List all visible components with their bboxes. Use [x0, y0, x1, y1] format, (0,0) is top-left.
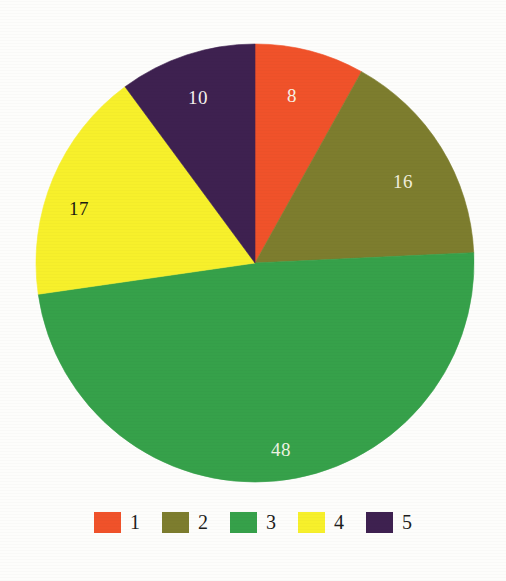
legend-swatch-3: [230, 512, 257, 533]
pie-chart-svg: 816481710: [0, 0, 506, 500]
legend-label-5: 5: [402, 512, 412, 532]
chart-legend: 12345: [0, 503, 506, 541]
legend-item-2[interactable]: 2: [162, 512, 208, 533]
legend-item-5[interactable]: 5: [366, 512, 412, 533]
pie-slice-value-label-1: 8: [287, 85, 297, 106]
legend-swatch-2: [162, 512, 189, 533]
legend-item-3[interactable]: 3: [230, 512, 276, 533]
pie-chart-plot-area: 816481710: [0, 0, 506, 500]
legend-label-4: 4: [334, 512, 344, 532]
pie-slice-value-label-5: 10: [188, 87, 208, 108]
legend-item-1[interactable]: 1: [94, 512, 140, 533]
legend-item-4[interactable]: 4: [298, 512, 344, 533]
legend-swatch-5: [366, 512, 393, 533]
pie-slice-group: [36, 44, 474, 482]
pie-slice-value-label-4: 17: [69, 198, 89, 219]
pie-chart-page: 816481710 12345: [0, 0, 506, 581]
legend-label-2: 2: [198, 512, 208, 532]
pie-slice-3[interactable]: [38, 253, 474, 482]
legend-swatch-1: [94, 512, 121, 533]
pie-slice-value-label-3: 48: [271, 439, 291, 460]
legend-label-1: 1: [130, 512, 140, 532]
pie-slice-value-label-2: 16: [393, 171, 413, 192]
legend-label-3: 3: [266, 512, 276, 532]
legend-swatch-4: [298, 512, 325, 533]
